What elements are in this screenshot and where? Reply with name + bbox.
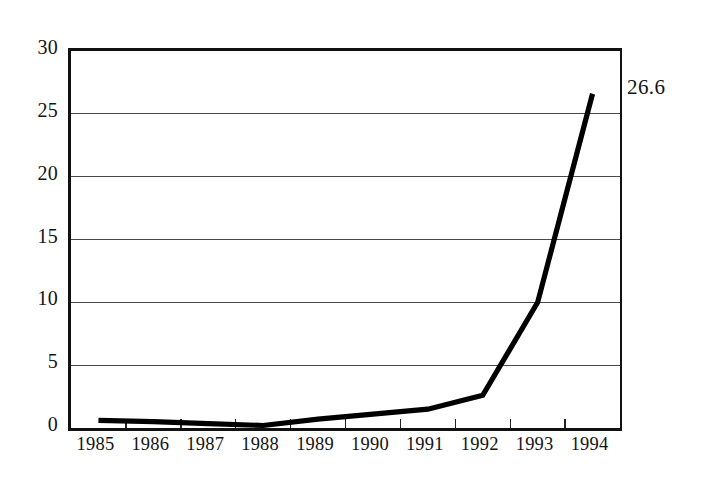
data-series-line: [71, 51, 620, 428]
x-axis-tick-labels: 1985198619871988198919901991199219931994: [68, 433, 617, 463]
plot-area: [68, 48, 622, 431]
x-axis-tick-label: 1994: [562, 433, 617, 455]
line-chart: 051015202530 198519861987198819891990199…: [0, 0, 707, 481]
x-axis-tick-label: 1988: [233, 433, 288, 455]
y-axis-tick-label: 0: [48, 414, 58, 434]
y-axis-tick-label: 20: [37, 163, 58, 183]
x-axis-tick-label: 1991: [397, 433, 452, 455]
x-axis-tick-label: 1990: [343, 433, 398, 455]
x-axis-tick-label: 1985: [68, 433, 123, 455]
y-axis-tick-label: 5: [48, 351, 58, 371]
x-axis-tick-label: 1992: [452, 433, 507, 455]
y-axis-tick-label: 25: [37, 100, 58, 120]
y-axis-tick-labels: 051015202530: [0, 0, 58, 481]
data-line-path: [98, 94, 592, 426]
y-axis-tick-label: 15: [37, 226, 58, 246]
x-axis-tick-label: 1986: [123, 433, 178, 455]
x-axis-tick-label: 1987: [178, 433, 233, 455]
y-axis-tick-label: 10: [37, 288, 58, 308]
x-axis-tick-label: 1993: [507, 433, 562, 455]
y-axis-tick-label: 30: [37, 37, 58, 57]
endpoint-value-label: 26.6: [627, 75, 665, 99]
x-axis-tick-label: 1989: [288, 433, 343, 455]
